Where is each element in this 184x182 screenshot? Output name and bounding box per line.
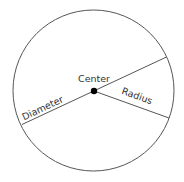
radius-label: Radius — [120, 85, 154, 106]
circle-diagram: Center Diameter Radius — [0, 0, 184, 182]
center-label: Center — [78, 73, 110, 84]
center-point — [91, 88, 97, 94]
